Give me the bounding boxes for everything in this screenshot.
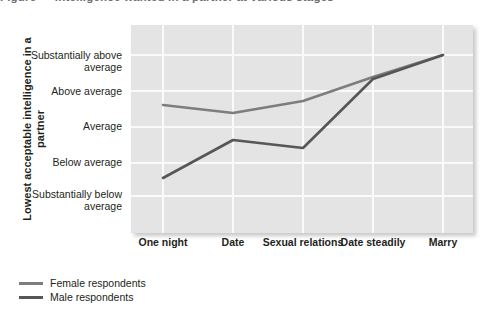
legend-item-female: Female respondents bbox=[19, 276, 146, 290]
series-lines bbox=[131, 25, 473, 233]
y-tick-label-3: Average bbox=[4, 121, 122, 133]
line-male-respondents bbox=[163, 55, 443, 178]
chart-legend: Female respondents Male respondents bbox=[19, 276, 146, 304]
chart-figure: Figure — Intelligence wanted in a partne… bbox=[0, 0, 497, 311]
figure-title-text: Figure — Intelligence wanted in a partne… bbox=[0, 0, 334, 3]
y-axis: Lowest acceptable intelligence in a part… bbox=[0, 25, 126, 233]
line-female-respondents bbox=[163, 55, 443, 113]
y-tick-label-1: Substantially below average bbox=[4, 189, 122, 212]
figure-title-clipped: Figure — Intelligence wanted in a partne… bbox=[0, 0, 497, 9]
legend-item-male: Male respondents bbox=[19, 290, 146, 304]
y-tick-label-5: Substantially above average bbox=[4, 50, 122, 73]
plot-area bbox=[131, 25, 473, 233]
legend-swatch-female bbox=[19, 282, 43, 285]
legend-label-male: Male respondents bbox=[50, 291, 133, 303]
y-tick-label-4: Above average bbox=[4, 86, 122, 98]
y-tick-label-2: Below average bbox=[4, 157, 122, 169]
x-axis: One night Date Sexual relations Date ste… bbox=[131, 236, 473, 266]
x-tick-label-marry: Marry bbox=[399, 236, 487, 248]
legend-swatch-male bbox=[19, 296, 43, 299]
legend-label-female: Female respondents bbox=[50, 277, 146, 289]
